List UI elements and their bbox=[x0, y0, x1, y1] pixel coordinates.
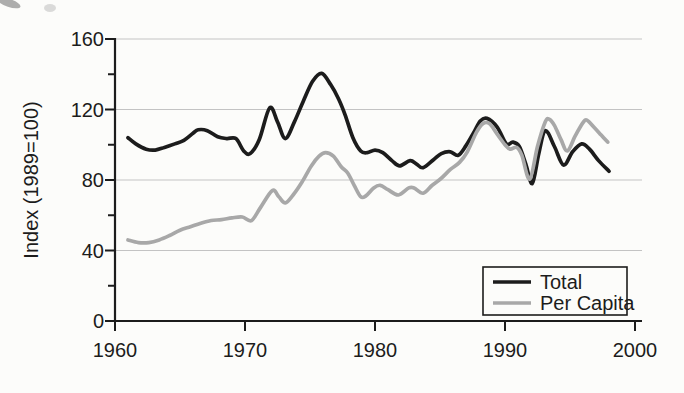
series-line-per-capita bbox=[128, 119, 608, 243]
line-chart: Index (1989=100) 160 120 80 40 0 1960 19… bbox=[0, 0, 684, 393]
x-tick-label: 1990 bbox=[483, 339, 528, 361]
y-tick-label: 0 bbox=[93, 310, 104, 332]
legend-label-per-capita: Per Capita bbox=[540, 292, 635, 314]
x-tick-label: 1980 bbox=[353, 339, 398, 361]
x-tick-label: 2000 bbox=[613, 339, 658, 361]
x-tick-label: 1960 bbox=[93, 339, 138, 361]
scan-smudge bbox=[0, 0, 56, 12]
series-line-total bbox=[128, 73, 609, 183]
y-tick-label: 160 bbox=[71, 28, 104, 50]
legend: Total Per Capita bbox=[483, 267, 635, 315]
y-tick-label: 80 bbox=[82, 169, 104, 191]
y-axis-title: Index (1989=100) bbox=[20, 101, 42, 258]
chart-figure: Index (1989=100) 160 120 80 40 0 1960 19… bbox=[0, 0, 684, 393]
y-tick-label: 40 bbox=[82, 240, 104, 262]
legend-label-total: Total bbox=[540, 271, 582, 293]
y-tick-label: 120 bbox=[71, 99, 104, 121]
x-tick-label: 1970 bbox=[223, 339, 268, 361]
data-series bbox=[128, 73, 609, 243]
